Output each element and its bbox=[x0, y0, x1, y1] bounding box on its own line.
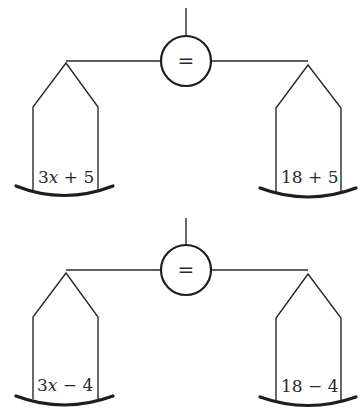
left-pan-expression: 3x + 5 bbox=[38, 167, 94, 187]
balance-scale-1: = 3x + 5 18 + 5 bbox=[16, 8, 356, 197]
right-pan: 18 + 5 bbox=[260, 65, 356, 197]
right-pan-expression: 18 + 5 bbox=[281, 167, 339, 187]
left-pan-expression: 3x − 4 bbox=[37, 375, 93, 395]
equals-sign: = bbox=[178, 49, 195, 73]
balance-scale-2: = 3x − 4 18 − 4 bbox=[16, 218, 356, 406]
left-pan: 3x + 5 bbox=[16, 63, 113, 196]
balance-scales-diagram: = 3x + 5 18 + 5 = 3x − 4 18 − 4 bbox=[0, 0, 362, 414]
right-pan: 18 − 4 bbox=[260, 274, 356, 406]
left-pan: 3x − 4 bbox=[16, 273, 113, 405]
equals-sign: = bbox=[178, 258, 195, 282]
right-pan-expression: 18 − 4 bbox=[281, 376, 339, 396]
